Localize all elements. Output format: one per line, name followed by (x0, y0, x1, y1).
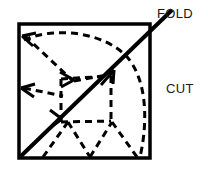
fold-label: FOLD (157, 6, 193, 21)
cut-label: CUT (166, 81, 194, 96)
figure-canvas: FOLD CUT (0, 0, 208, 174)
